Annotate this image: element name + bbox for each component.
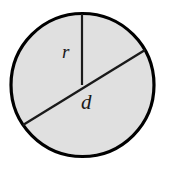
circle-diagram-canvas xyxy=(0,0,169,171)
circle-diagram-figure: r d xyxy=(0,0,169,171)
radius-label: r xyxy=(62,42,69,61)
diameter-label: d xyxy=(81,92,92,113)
